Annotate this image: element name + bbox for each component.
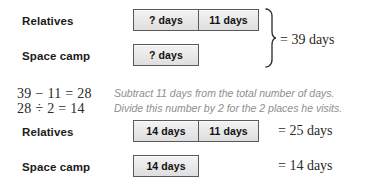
explanation-subtract: Subtract 11 days from the total number o… <box>114 88 334 99</box>
result-relatives-days: = 25 days <box>278 124 333 138</box>
bar-segment-relatives-fourteen: 14 days <box>134 121 198 141</box>
equation-divide: 28 ÷ 2 = 14 <box>17 102 85 116</box>
bar-relatives-top: ? days 11 days <box>133 9 259 31</box>
bar-space-camp-top: ? days <box>133 44 199 66</box>
result-space-camp-days: = 14 days <box>278 159 333 173</box>
row-label-relatives-top: Relatives <box>22 16 73 28</box>
row-label-space-camp-top: Space camp <box>22 51 90 63</box>
result-total-days: = 39 days <box>280 33 335 47</box>
bar-segment-relatives-eleven: 11 days <box>198 10 258 30</box>
equation-subtract: 39 − 11 = 28 <box>17 87 92 101</box>
bar-segment-relatives-unknown: ? days <box>134 10 198 30</box>
bar-segment-space-camp-unknown: ? days <box>134 45 198 65</box>
bar-space-camp-bottom: 14 days <box>133 155 199 177</box>
row-label-space-camp-bottom: Space camp <box>22 162 90 174</box>
row-label-relatives-bottom: Relatives <box>22 127 73 139</box>
explanation-divide: Divide this number by 2 for the 2 places… <box>114 103 342 114</box>
bar-segment-space-camp-fourteen: 14 days <box>134 156 198 176</box>
bar-relatives-bottom: 14 days 11 days <box>133 120 259 142</box>
bar-segment-relatives-eleven-bottom: 11 days <box>198 121 258 141</box>
grouping-brace-icon <box>264 8 277 68</box>
